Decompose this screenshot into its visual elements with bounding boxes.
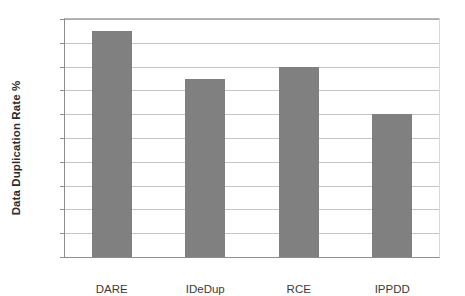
bars-layer [65,19,439,257]
y-tick-mark [60,19,65,20]
bar-dare [92,31,132,257]
plot-area: 02468101214161820DAREIDeDupRCEIPPDD [64,18,440,258]
y-tick-mark [60,162,65,163]
y-tick-mark [60,257,65,258]
y-axis-title: Data Duplication Rate % [0,0,32,296]
x-tick-label-idedup: IDeDup [186,283,225,295]
bar-idedup [185,79,225,258]
y-tick-mark [60,90,65,91]
x-tick-label-rce: RCE [287,283,311,295]
y-tick-mark [60,186,65,187]
y-tick-mark [60,209,65,210]
bar-chart: Data Duplication Rate % 0246810121416182… [0,0,465,296]
y-tick-mark [60,43,65,44]
y-tick-mark [60,67,65,68]
bar-ippdd [372,114,412,257]
y-tick-mark [60,233,65,234]
y-tick-mark [60,138,65,139]
x-tick-label-dare: DARE [96,283,128,295]
x-tick-label-ippdd: IPPDD [375,283,410,295]
bar-rce [279,67,319,257]
y-tick-mark [60,114,65,115]
